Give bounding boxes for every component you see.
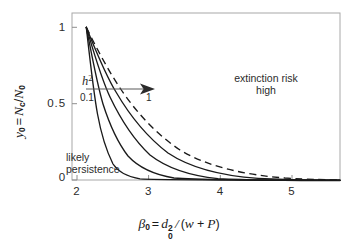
annotation-h-squared-label: h2 <box>82 74 93 88</box>
x-axis-equals: = <box>150 217 161 231</box>
y-axis-N-symbol: N <box>11 107 26 116</box>
x-axis-d-symbol: d <box>161 216 168 231</box>
annotation-extinction-risk-line1: extinction risk <box>212 73 320 85</box>
annotation-extinction-risk-line2: high <box>212 85 320 97</box>
annotation-likely-persistence-line1: likely <box>66 152 158 164</box>
annotation-h-squared-high-value: 1 <box>146 92 152 103</box>
x-tick-label-3: 3 <box>133 186 165 198</box>
x-tick-label-2: 2 <box>61 186 93 198</box>
y-axis-equals: = <box>12 116 26 127</box>
y-axis-y-symbol: y <box>11 132 26 138</box>
figure-container: 1 0.5 0 2 3 4 5 y0=Nc/N0 β0=d20/(w+P) ex… <box>0 0 358 245</box>
annotation-h-squared-low-value: 0.1 <box>80 92 94 103</box>
x-axis-paren-close: ) <box>215 217 219 231</box>
x-tick-label-4: 4 <box>204 186 236 198</box>
y-tick-label-1: 1 <box>28 22 66 34</box>
y-axis-title: y0=Nc/N0 <box>12 56 27 166</box>
y-axis-slash: / <box>12 99 26 102</box>
x-axis-title: β0=d20/(w+P) <box>0 217 358 232</box>
x-axis-d-subscript: 0 <box>168 232 173 241</box>
x-axis-plus: + <box>194 217 207 231</box>
y-tick-label-0.5: 0.5 <box>22 98 66 110</box>
annotation-likely-persistence-line2: persistence <box>66 164 158 176</box>
y-axis-N2-subscript: 0 <box>17 85 27 90</box>
chart-canvas <box>0 0 358 245</box>
y-axis-N2-symbol: N <box>11 90 26 99</box>
x-tick-label-5: 5 <box>276 186 308 198</box>
x-axis-w-symbol: w <box>185 216 194 231</box>
annotation-likely-persistence: likely persistence <box>66 152 158 176</box>
annotation-extinction-risk: extinction risk high <box>212 73 320 97</box>
y-axis-y-subscript: 0 <box>17 127 27 132</box>
y-axis-N-subscript: c <box>17 102 27 107</box>
y-tick-label-0: 0 <box>28 172 66 184</box>
annotation-h-superscript: 2 <box>88 73 92 83</box>
